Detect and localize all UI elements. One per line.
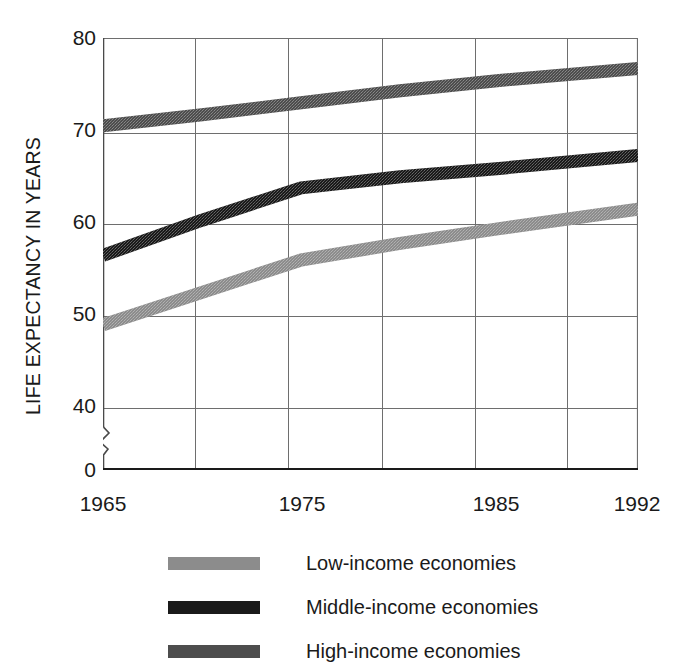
plot-svg [103, 38, 638, 470]
legend-item-low-income: Low-income economies [168, 541, 598, 585]
series-middle-income-line [103, 156, 638, 256]
legend-label-low-income: Low-income economies [306, 552, 516, 575]
y-tick-label-60: 60 [38, 211, 96, 232]
y-tick-label-70: 70 [38, 119, 96, 140]
legend-swatch-low-income [168, 557, 260, 570]
series-high-income-economies [103, 69, 638, 126]
x-axis-tick-labels: 1965 1975 1985 1992 [0, 493, 681, 525]
legend-label-high-income: High-income economies [306, 640, 521, 662]
y-axis-break-icon [103, 427, 109, 470]
series-high-income-texture [103, 69, 638, 126]
y-tick-label-0: 0 [38, 459, 96, 480]
x-tick-label-1992: 1992 [577, 493, 681, 514]
legend-swatch-high-income [168, 645, 260, 658]
data-series [103, 69, 638, 325]
y-tick-label-80: 80 [38, 27, 96, 48]
x-tick-label-1965: 1965 [43, 493, 163, 514]
x-tick-label-1985: 1985 [436, 493, 556, 514]
legend-label-middle-income: Middle-income economies [306, 596, 538, 619]
legend-swatch-middle-income [168, 601, 260, 614]
series-middle-income-texture [103, 156, 638, 256]
plot-area [103, 38, 638, 470]
chart-legend: Low-income economies Middle-income econo… [168, 541, 598, 662]
y-tick-label-40: 40 [38, 395, 96, 416]
legend-item-high-income: High-income economies [168, 629, 598, 662]
life-expectancy-line-chart: LIFE EXPECTANCY IN YEARS 80 70 60 50 40 … [0, 0, 681, 662]
x-tick-label-1975: 1975 [242, 493, 362, 514]
legend-item-middle-income: Middle-income economies [168, 585, 598, 629]
y-tick-label-50: 50 [38, 303, 96, 324]
series-middle-income-economies [103, 156, 638, 256]
y-axis-tick-labels: 80 70 60 50 40 0 [30, 0, 96, 500]
